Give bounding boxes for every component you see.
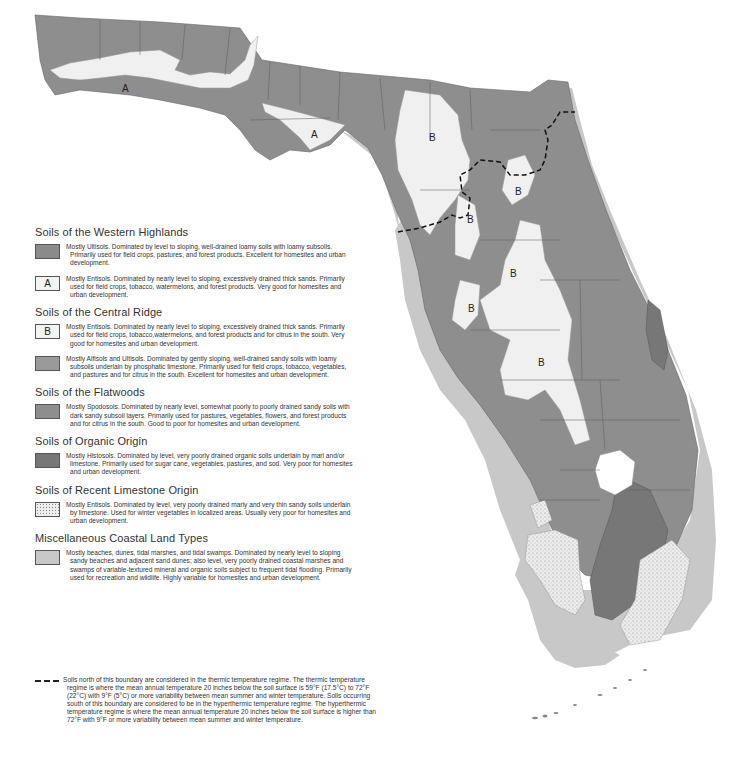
- section-title: Soils of the Western Highlands: [35, 226, 355, 238]
- legend-entry-spodosols: Mostly Spodosols. Dominated by nearly le…: [35, 403, 355, 428]
- legend-description: Mostly Entisols. Dominated by nearly lev…: [66, 275, 355, 300]
- section-title: Soils of the Central Ridge: [35, 306, 355, 318]
- legend-section-organic: Soils of Organic Origin Mostly Histosols…: [35, 435, 355, 477]
- map-label-b: B: [510, 268, 517, 279]
- florida-keys: [532, 669, 647, 719]
- legend-description: Mostly Entisols. Dominated by level, ver…: [66, 501, 355, 526]
- section-title: Soils of the Flatwoods: [35, 386, 355, 398]
- boundary-note: Soils north of this boundary are conside…: [35, 676, 380, 725]
- boundary-description: Soils north of this boundary are conside…: [63, 676, 380, 725]
- legend-section-coastal: Miscellaneous Coastal Land Types Mostly …: [35, 532, 355, 582]
- legend-entry-coastal: Mostly beaches, dunes, tidal marshes, an…: [35, 549, 355, 582]
- map-label-a: A: [311, 129, 318, 140]
- legend-entry-histosols: Mostly Histosols. Dominated by level, ve…: [35, 452, 355, 477]
- map-legend: Soils of the Western Highlands Mostly Ul…: [35, 226, 355, 589]
- map-label-b: B: [429, 132, 436, 143]
- section-title: Miscellaneous Coastal Land Types: [35, 532, 355, 544]
- legend-description: Mostly Histosols. Dominated by level, ve…: [66, 452, 355, 477]
- legend-section-western-highlands: Soils of the Western Highlands Mostly Ul…: [35, 226, 355, 299]
- legend-description: Mostly Alfisols and Ultisols. Dominated …: [66, 355, 355, 380]
- swatch-coastal: [35, 550, 60, 565]
- swatch-histosols: [35, 453, 60, 468]
- swatch-ultisols: [35, 244, 60, 259]
- legend-description: Mostly Ultisols. Dominated by level to s…: [66, 243, 355, 268]
- legend-entry-entisols-b: B Mostly Entisols. Dominated by nearly l…: [35, 323, 355, 348]
- legend-entry-alfisols: Mostly Alfisols and Ultisols. Dominated …: [35, 355, 355, 380]
- section-title: Soils of Recent Limestone Origin: [35, 484, 355, 496]
- map-label-b: B: [467, 214, 474, 225]
- dashed-line-symbol: [35, 680, 59, 682]
- legend-entry-ultisols: Mostly Ultisols. Dominated by level to s…: [35, 243, 355, 268]
- map-label-b: B: [515, 186, 522, 197]
- swatch-alfisols: [35, 356, 60, 371]
- legend-description: Mostly Spodosols. Dominated by nearly le…: [66, 403, 355, 428]
- map-label-a: A: [122, 83, 129, 94]
- map-label-b: B: [538, 357, 545, 368]
- legend-description: Mostly Entisols. Dominated by nearly lev…: [66, 323, 355, 348]
- legend-description: Mostly beaches, dunes, tidal marshes, an…: [66, 549, 355, 582]
- section-title: Soils of Organic Origin: [35, 435, 355, 447]
- swatch-entisols-b: B: [35, 324, 60, 339]
- legend-section-flatwoods: Soils of the Flatwoods Mostly Spodosols.…: [35, 386, 355, 428]
- legend-entry-limestone-entisols: Mostly Entisols. Dominated by level, ver…: [35, 501, 355, 526]
- swatch-limestone-dotted: [35, 502, 60, 517]
- legend-entry-entisols-a: A Mostly Entisols. Dominated by nearly l…: [35, 275, 355, 300]
- swatch-spodosols: [35, 404, 60, 419]
- map-label-b: B: [468, 303, 475, 314]
- legend-section-recent-limestone: Soils of Recent Limestone Origin Mostly …: [35, 484, 355, 526]
- swatch-entisols-a: A: [35, 276, 60, 291]
- legend-section-central-ridge: Soils of the Central Ridge B Mostly Enti…: [35, 306, 355, 379]
